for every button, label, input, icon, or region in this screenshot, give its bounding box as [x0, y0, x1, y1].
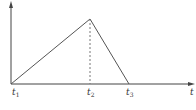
tick-label-t2: t2 [87, 88, 94, 98]
t2-sub: 2 [91, 91, 95, 98]
tick-label-t1: t1 [12, 88, 19, 98]
x-axis-arrow-icon [188, 82, 195, 86]
x-axis-label: t [190, 88, 194, 97]
pulse-line [11, 19, 129, 84]
y-axis-arrow-icon [9, 1, 13, 8]
t1-sub: 1 [16, 91, 20, 98]
chart-canvas [0, 0, 196, 110]
tick-label-t3: t3 [126, 88, 133, 98]
t3-sub: 3 [130, 91, 134, 98]
